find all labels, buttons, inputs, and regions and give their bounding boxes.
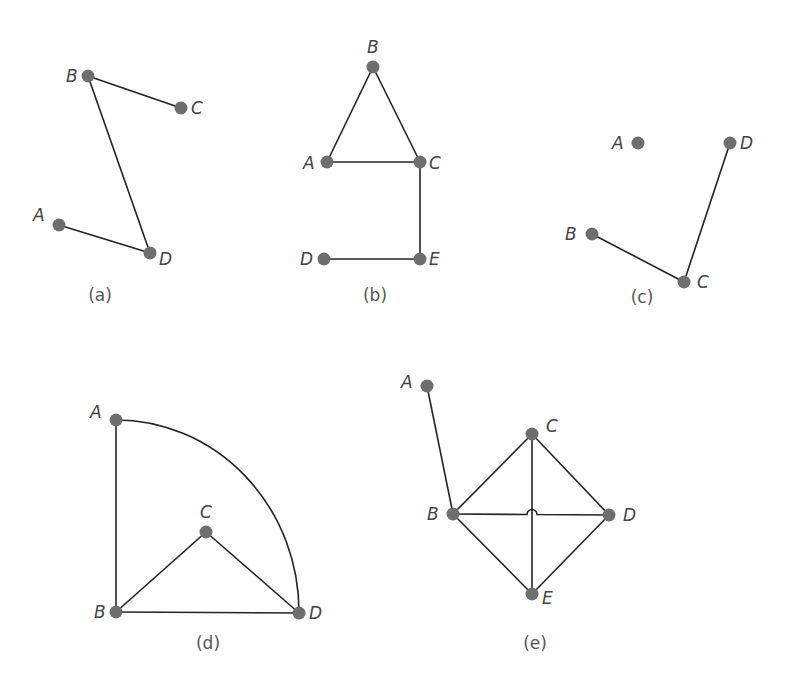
vertex-label-b-B: B bbox=[367, 37, 379, 57]
edge-b-BC bbox=[373, 67, 420, 162]
vertex-label-e-D: D bbox=[623, 505, 636, 525]
graph-c bbox=[592, 143, 730, 282]
hop-edge-e-BD bbox=[453, 510, 609, 516]
vertices-layer bbox=[53, 61, 737, 620]
vertex-label-a-C: C bbox=[191, 98, 203, 118]
graph-a bbox=[59, 76, 181, 253]
vertex-label-b-D: D bbox=[300, 249, 313, 269]
vertex-label-e-A: A bbox=[400, 372, 413, 392]
vertex-label-c-D: D bbox=[740, 133, 753, 153]
vertex-label-b-C: C bbox=[429, 153, 441, 173]
graph-e bbox=[427, 386, 609, 594]
vertex-e-C bbox=[526, 428, 539, 441]
vertex-e-D bbox=[603, 509, 616, 522]
vertex-c-B bbox=[586, 228, 599, 241]
vertex-label-d-D: D bbox=[309, 603, 322, 623]
vertex-label-d-A: A bbox=[89, 402, 102, 422]
vertex-label-e-E: E bbox=[542, 588, 553, 608]
vertex-c-C bbox=[678, 276, 691, 289]
edge-d-BC bbox=[116, 532, 206, 612]
vertex-a-B bbox=[82, 70, 95, 83]
vertex-b-C bbox=[414, 156, 427, 169]
edge-e-DE bbox=[532, 515, 609, 594]
graph-caption-b: (b) bbox=[363, 285, 387, 305]
vertex-label-e-C: C bbox=[546, 416, 558, 436]
vertex-d-A bbox=[110, 414, 123, 427]
vertex-label-c-B: B bbox=[565, 224, 577, 244]
vertex-label-b-A: A bbox=[302, 153, 315, 173]
edge-a-BD bbox=[88, 76, 150, 253]
vertex-d-C bbox=[200, 526, 213, 539]
edges-layer bbox=[59, 67, 730, 613]
vertex-label-b-E: E bbox=[429, 249, 440, 269]
edge-d-CD bbox=[206, 532, 299, 613]
graph-figure: ABCD(a)ABCDE(b)ABCD(c)ABCD(d)ABCDE(e) bbox=[0, 0, 792, 691]
vertex-d-D bbox=[293, 607, 306, 620]
vertex-label-a-D: D bbox=[159, 249, 172, 269]
vertex-a-C bbox=[175, 102, 188, 115]
vertex-b-D bbox=[318, 253, 331, 266]
vertex-b-E bbox=[414, 253, 427, 266]
vertex-e-A bbox=[421, 380, 434, 393]
vertex-b-B bbox=[367, 61, 380, 74]
vertex-c-D bbox=[724, 137, 737, 150]
vertex-d-B bbox=[110, 606, 123, 619]
edge-a-AD bbox=[59, 225, 150, 253]
vertex-label-a-B: B bbox=[66, 66, 78, 86]
edge-e-BC bbox=[453, 434, 532, 514]
vertex-label-d-C: C bbox=[200, 502, 212, 522]
graph-b bbox=[324, 67, 420, 259]
vertex-b-A bbox=[321, 156, 334, 169]
graph-caption-a: (a) bbox=[88, 285, 112, 305]
edge-e-AB bbox=[427, 386, 453, 514]
vertex-label-a-A: A bbox=[32, 205, 45, 225]
labels-layer: ABCD(a)ABCDE(b)ABCD(c)ABCD(d)ABCDE(e) bbox=[32, 37, 753, 653]
vertex-label-e-B: B bbox=[427, 504, 439, 524]
edge-e-CD bbox=[532, 434, 609, 515]
edge-c-BC bbox=[592, 234, 684, 282]
vertex-label-d-B: B bbox=[94, 602, 106, 622]
edge-d-BD bbox=[116, 612, 299, 613]
vertex-c-A bbox=[632, 137, 645, 150]
edge-a-BC bbox=[88, 76, 181, 108]
vertex-label-c-C: C bbox=[697, 272, 709, 292]
edge-e-BE bbox=[453, 514, 532, 594]
vertex-a-A bbox=[53, 219, 66, 232]
edge-c-CD bbox=[684, 143, 730, 282]
graph-caption-e: (e) bbox=[523, 633, 547, 653]
vertex-a-D bbox=[144, 247, 157, 260]
vertex-e-E bbox=[526, 588, 539, 601]
vertex-e-B bbox=[447, 508, 460, 521]
edge-b-AB bbox=[327, 67, 373, 162]
graph-caption-d: (d) bbox=[196, 633, 220, 653]
graph-caption-c: (c) bbox=[631, 287, 654, 307]
vertex-label-c-A: A bbox=[611, 133, 624, 153]
